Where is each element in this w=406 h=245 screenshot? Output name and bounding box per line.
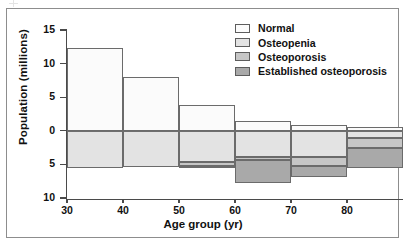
chart-legend: NormalOsteopeniaOsteoporosisEstablished …: [235, 21, 406, 79]
legend-item-0: Normal: [235, 21, 406, 35]
x-tick-label: 40: [108, 204, 138, 216]
x-tick-mark: [234, 199, 235, 203]
y-tick-label: 10: [15, 191, 55, 203]
x-tick-label: 70: [276, 204, 306, 216]
y-tick-label: 0: [15, 124, 55, 136]
figure-panel: Population (millions) 151050510 30405060…: [0, 0, 406, 245]
x-tick-mark: [178, 199, 179, 203]
x-tick-mark: [66, 199, 67, 203]
y-tick-label: 10: [15, 57, 55, 69]
bar-segment: [235, 131, 291, 157]
y-tick-label: 5: [15, 157, 55, 169]
legend-label: Osteoporosis: [258, 51, 326, 63]
bar-segment: [179, 131, 235, 162]
bar-segment: [67, 48, 123, 131]
bar-segment: [123, 77, 179, 131]
bar-segment: [291, 166, 347, 177]
bar-segment: [291, 157, 347, 166]
bar-segment: [179, 105, 235, 131]
x-tick-label: 30: [52, 204, 82, 216]
legend-swatch-icon: [235, 38, 250, 47]
bar-segment: [235, 160, 291, 183]
legend-item-1: Osteopenia: [235, 35, 406, 49]
zero-baseline: [67, 131, 403, 132]
x-tick-mark: [290, 199, 291, 203]
scan-artifact-mark: [9, 0, 18, 7]
bar-segment: [235, 121, 291, 130]
bar-segment: [123, 131, 179, 167]
legend-item-3: Established osteoporosis: [235, 64, 406, 78]
legend-swatch-icon: [235, 67, 250, 76]
x-tick-mark: [122, 199, 123, 203]
y-tick-mark: [60, 63, 67, 64]
x-tick-label: 80: [332, 204, 362, 216]
chart-frame: Population (millions) 151050510 30405060…: [6, 8, 399, 238]
legend-label: Established osteoporosis: [258, 65, 387, 77]
legend-label: Osteopenia: [258, 37, 316, 49]
legend-swatch-icon: [235, 52, 250, 61]
bar-segment: [347, 138, 403, 149]
y-tick-label: 5: [15, 90, 55, 102]
x-tick-label: 50: [164, 204, 194, 216]
legend-label: Normal: [258, 22, 295, 34]
legend-swatch-icon: [235, 24, 250, 33]
y-tick-mark: [60, 29, 67, 30]
legend-item-2: Osteoporosis: [235, 50, 406, 64]
bar-segment: [291, 131, 347, 157]
x-tick-mark: [346, 199, 347, 203]
bar-segment: [67, 131, 123, 168]
x-axis-title: Age group (yr): [0, 218, 406, 230]
x-tick-label: 60: [220, 204, 250, 216]
y-tick-mark: [60, 97, 67, 98]
bar-segment: [179, 166, 235, 168]
y-tick-mark: [60, 164, 67, 165]
bar-segment: [347, 148, 403, 168]
y-tick-label: 15: [15, 23, 55, 35]
y-tick-mark: [60, 130, 67, 131]
